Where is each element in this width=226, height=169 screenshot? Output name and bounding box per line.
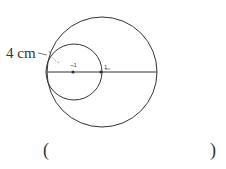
answer-close-paren: ) [210, 140, 216, 160]
circle-diagram: 4 cm ¬1 1 [0, 0, 226, 169]
radius-pointer-line [38, 53, 47, 55]
radius-label: 4 cm [6, 45, 36, 61]
big-circle-center-dot [99, 70, 102, 73]
small-center-label: ¬1 [70, 62, 78, 68]
answer-open-paren: ( [43, 140, 49, 160]
small-circle-center-dot [71, 70, 74, 73]
